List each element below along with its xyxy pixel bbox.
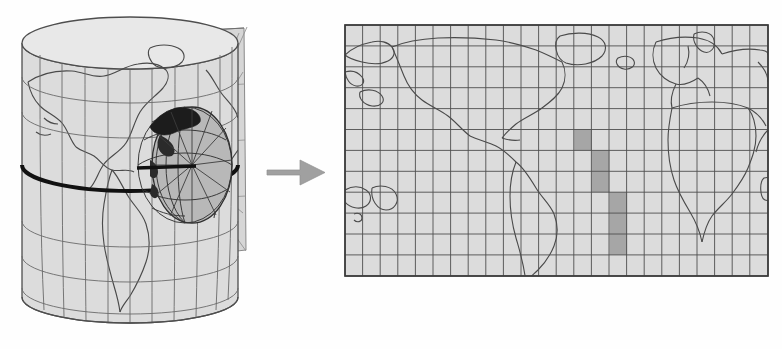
globe-equator-stub bbox=[137, 166, 196, 168]
inner-globe bbox=[137, 107, 232, 223]
figure-canvas bbox=[0, 0, 782, 349]
projection-figure bbox=[0, 0, 782, 349]
transform-arrow bbox=[267, 160, 325, 185]
flat-world-map bbox=[345, 25, 776, 283]
